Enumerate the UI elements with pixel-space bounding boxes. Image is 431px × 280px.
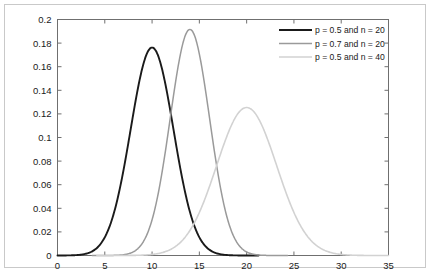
y-tick-label: 0.12 [33, 108, 52, 119]
series-curve-3 [97, 108, 389, 256]
x-tick-label: 25 [289, 260, 300, 271]
y-axis-ticks: 00.020.040.060.080.10.120.140.160.180.2 [33, 14, 389, 261]
y-tick-label: 0.2 [38, 14, 51, 25]
chart-figure: 05101520253035 00.020.040.060.080.10.120… [0, 0, 431, 280]
x-tick-label: 10 [147, 260, 158, 271]
y-tick-label: 0.14 [33, 85, 52, 96]
y-tick-label: 0.08 [33, 156, 52, 167]
binomial-distribution-chart: 05101520253035 00.020.040.060.080.10.120… [0, 0, 431, 280]
y-tick-label: 0.1 [38, 132, 51, 143]
legend-label-1: p = 0.5 and n = 20 [315, 25, 385, 35]
y-tick-label: 0.16 [33, 61, 52, 72]
data-curves [58, 29, 389, 255]
legend-label-2: p = 0.7 and n = 20 [315, 39, 385, 49]
x-tick-label: 5 [102, 260, 107, 271]
x-tick-label: 15 [194, 260, 205, 271]
x-tick-label: 30 [336, 260, 347, 271]
chart-legend: p = 0.5 and n = 20p = 0.7 and n = 20p = … [279, 25, 385, 62]
x-tick-label: 20 [241, 260, 252, 271]
y-tick-label: 0.04 [33, 203, 52, 214]
x-tick-label: 0 [55, 260, 60, 271]
series-curve-2 [92, 29, 287, 255]
y-tick-label: 0.18 [33, 38, 52, 49]
x-tick-label: 35 [383, 260, 394, 271]
y-tick-label: 0.02 [33, 226, 52, 237]
y-tick-label: 0 [46, 250, 51, 261]
y-tick-label: 0.06 [33, 179, 52, 190]
legend-label-3: p = 0.5 and n = 40 [315, 52, 385, 62]
